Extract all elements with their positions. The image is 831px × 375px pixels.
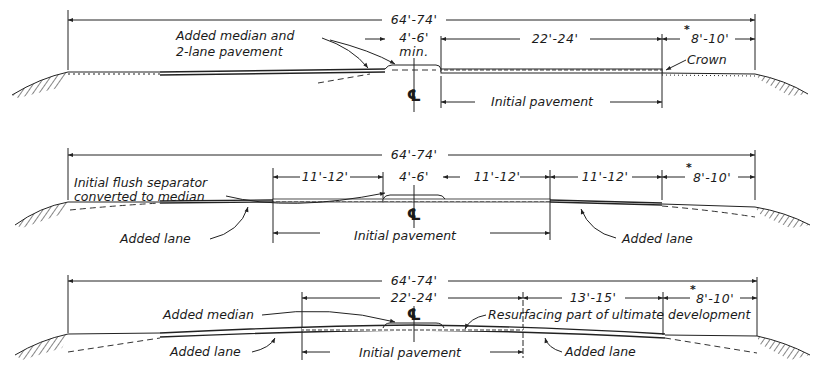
svg-text:Added median and: Added median and bbox=[175, 28, 294, 43]
svg-text:Added lane: Added lane bbox=[169, 344, 241, 359]
svg-text:*: * bbox=[686, 161, 692, 174]
shoulder-width-label: 8'-10' bbox=[691, 31, 729, 46]
section-stage-3: 64'-74' 22'-24' 13'-15' * 8'-10' bbox=[15, 273, 810, 360]
annotation-added-median: Added median and 2-lane pavement bbox=[175, 28, 395, 68]
svg-text:converted to median: converted to median bbox=[74, 189, 205, 204]
annotation-added-lane-left: Added lane bbox=[119, 207, 248, 246]
svg-text:64'-74': 64'-74' bbox=[391, 273, 438, 288]
right-lane-width-label: 11'-12' bbox=[582, 169, 629, 184]
svg-text:Crown: Crown bbox=[687, 52, 727, 67]
svg-text:Initial flush separator: Initial flush separator bbox=[74, 175, 208, 190]
left-lane-width-label: 11'-12' bbox=[302, 169, 349, 184]
median-dimension: 4'-6' min. bbox=[365, 30, 441, 72]
centerline-marker: ℄ bbox=[407, 305, 421, 342]
annotation-initial-pavement: Initial pavement bbox=[441, 76, 662, 109]
section-stage-2: 64'-74' 11'-12' 4'-6' 11'-12' 11'-12' * … bbox=[15, 147, 810, 246]
shoulder-width-label: 8'-10' bbox=[693, 170, 731, 185]
svg-text:Resurfacing part of ultimate d: Resurfacing part of ultimate development bbox=[488, 307, 752, 322]
section-stage-1: 64'-74' 4'-6' min. 22'-24' * 8'-10' bbox=[12, 10, 808, 112]
median-min-label: min. bbox=[399, 44, 429, 59]
svg-text:Added median: Added median bbox=[162, 307, 254, 322]
svg-text:℄: ℄ bbox=[407, 205, 421, 224]
annotation-initial-pavement: Initial pavement bbox=[273, 228, 550, 243]
annotation-added-lane-left: Added lane bbox=[169, 338, 275, 359]
annotation-added-lane-right: Added lane bbox=[581, 209, 693, 246]
annotation-added-lane-right: Added lane bbox=[545, 338, 636, 359]
svg-text:Initial pavement: Initial pavement bbox=[354, 228, 457, 243]
svg-text:℄: ℄ bbox=[407, 305, 421, 324]
overall-width-label: 64'-74' bbox=[391, 12, 438, 27]
shoulder-dimension: * 8'-10' bbox=[662, 23, 755, 46]
shoulder-width-label: 8'-10' bbox=[696, 291, 734, 306]
svg-text:Added lane: Added lane bbox=[564, 344, 636, 359]
pavement-width-label: 22'-24' bbox=[391, 290, 438, 305]
median-width-label: 4'-6' bbox=[399, 169, 429, 184]
annotation-resurfacing: Resurfacing part of ultimate development bbox=[465, 307, 752, 329]
centerline-marker: ℄ bbox=[407, 58, 421, 112]
centerline-marker: ℄ bbox=[407, 185, 421, 228]
center-lane-width-label: 11'-12' bbox=[474, 169, 521, 184]
median-width-label: 4'-6' bbox=[399, 30, 429, 45]
centerline-symbol: ℄ bbox=[407, 86, 421, 105]
svg-text:Initial pavement: Initial pavement bbox=[359, 345, 462, 360]
annotation-initial-pavement: Initial pavement bbox=[302, 345, 523, 360]
annotation-added-median: Added median bbox=[162, 307, 395, 322]
annotation-crown: Crown bbox=[666, 52, 727, 70]
svg-text:64'-74': 64'-74' bbox=[391, 147, 438, 162]
outer-lane-width-label: 13'-15' bbox=[570, 290, 617, 305]
svg-text:2-lane pavement: 2-lane pavement bbox=[176, 44, 284, 59]
pavement-width-label: 22'-24' bbox=[532, 31, 579, 46]
svg-text:Added lane: Added lane bbox=[119, 231, 191, 246]
svg-text:Added lane: Added lane bbox=[621, 231, 693, 246]
svg-text:Initial pavement: Initial pavement bbox=[491, 94, 594, 109]
highway-staged-development-diagram: 64'-74' 4'-6' min. 22'-24' * 8'-10' bbox=[0, 0, 831, 375]
asterisk-note: * bbox=[684, 23, 690, 36]
